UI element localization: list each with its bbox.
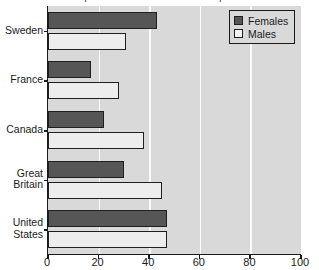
bar-females-sweden (48, 12, 157, 29)
bar-group (48, 111, 301, 149)
x-tick-mark (98, 255, 100, 259)
legend-label: Females (248, 15, 288, 27)
legend: FemalesMales (229, 10, 295, 44)
x-tick-mark (199, 255, 201, 259)
legend-item-males: Males (234, 27, 288, 40)
y-tick-mark (44, 80, 48, 82)
y-axis: SwedenFranceCanadaGreatBritainUnitedStat… (0, 6, 43, 254)
bar-females-united-states (48, 210, 167, 227)
chart-title: % reported to have had five or more part… (0, 0, 319, 2)
bar-females-canada (48, 111, 104, 128)
x-axis: 020406080100 (47, 256, 300, 270)
y-tick-label-sweden: Sweden (0, 25, 43, 37)
bar-males-united-states (48, 231, 167, 248)
y-tick-mark (44, 31, 48, 33)
bar-chart: % reported to have had five or more part… (0, 0, 319, 270)
bar-females-great-britain (48, 161, 124, 178)
bar-group (48, 161, 301, 199)
bar-group (48, 61, 301, 99)
y-tick-mark (44, 229, 48, 231)
y-tick-mark (44, 130, 48, 132)
bar-males-sweden (48, 33, 126, 50)
bar-group (48, 210, 301, 248)
bar-males-great-britain (48, 182, 162, 199)
bar-males-canada (48, 132, 144, 149)
x-tick-mark (249, 255, 251, 259)
y-tick-label-united-states: UnitedStates (0, 217, 43, 240)
x-tick-mark (148, 255, 150, 259)
bar-males-france (48, 82, 119, 99)
y-tick-label-canada: Canada (0, 124, 43, 136)
legend-item-females: Females (234, 14, 288, 27)
legend-swatch-females-icon (234, 16, 243, 25)
legend-swatch-males-icon (234, 29, 243, 38)
y-tick-label-france: France (0, 74, 43, 86)
y-tick-label-great-britain: GreatBritain (0, 168, 43, 191)
y-tick-mark (44, 180, 48, 182)
bar-females-france (48, 61, 91, 78)
x-tick-mark (47, 255, 49, 259)
x-tick-mark (300, 255, 302, 259)
legend-label: Males (248, 28, 276, 40)
